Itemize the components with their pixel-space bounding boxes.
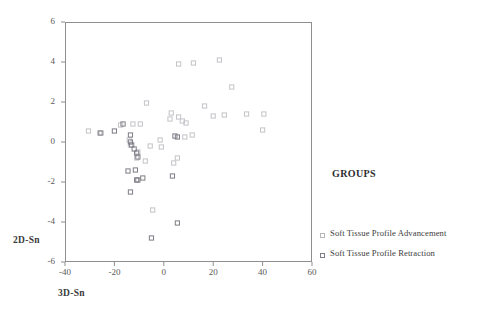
legend-item: Soft Tissue Profile Retraction — [320, 243, 478, 263]
x-axis-title: 3D-Sn — [58, 288, 85, 298]
x-tick-label: -40 — [53, 267, 77, 277]
x-tick-label: 40 — [251, 267, 275, 277]
legend: GROUPS Soft Tissue Profile AdvancementSo… — [320, 168, 478, 263]
y-tick-label: -6 — [33, 256, 55, 266]
plot-area — [65, 22, 312, 262]
legend-title: GROUPS — [332, 168, 478, 179]
y-tick-label: 4 — [33, 56, 55, 66]
y-tick-label: 2 — [33, 96, 55, 106]
x-tick-label: 20 — [201, 267, 225, 277]
x-tick-label: 60 — [300, 267, 324, 277]
y-tick-label: 0 — [33, 136, 55, 146]
legend-item: Soft Tissue Profile Advancement — [320, 223, 478, 243]
scatter-plot-figure: 2D-Sn 3D-Sn -6-4-20246 -40-200204060 GRO… — [0, 0, 480, 313]
y-tick-label: -2 — [33, 176, 55, 186]
y-tick-label: 6 — [33, 16, 55, 26]
x-tick-label: -20 — [102, 267, 126, 277]
legend-swatch-icon — [320, 253, 325, 258]
legend-swatch-icon — [320, 233, 325, 238]
legend-item-label: Soft Tissue Profile Retraction — [330, 248, 435, 258]
y-axis-title: 2D-Sn — [13, 235, 40, 245]
x-tick-label: 0 — [152, 267, 176, 277]
legend-item-list: Soft Tissue Profile AdvancementSoft Tiss… — [320, 223, 478, 263]
y-tick-label: -4 — [33, 216, 55, 226]
legend-item-label: Soft Tissue Profile Advancement — [330, 228, 447, 238]
